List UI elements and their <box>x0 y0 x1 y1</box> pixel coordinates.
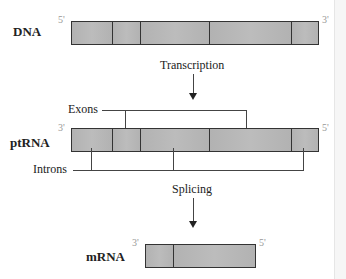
splicing-arrow-shaft <box>193 198 194 222</box>
ptrna-segment-exon <box>113 129 141 151</box>
dna-segment <box>141 22 210 44</box>
dna-segment <box>72 22 113 44</box>
ptrna-label: ptRNA <box>10 135 50 151</box>
exons-label: Exons <box>68 102 98 117</box>
dna-segment <box>210 22 292 44</box>
mrna-segment-exon <box>146 245 174 267</box>
introns-label: Introns <box>33 162 67 177</box>
splicing-label: Splicing <box>172 182 212 197</box>
mrna-label: mRNA <box>86 249 125 265</box>
ptrna-segment-intron <box>141 129 210 151</box>
dna-3prime-label: 3' <box>322 14 329 25</box>
dna-5prime-label: 5' <box>58 14 65 25</box>
mrna-strand <box>145 244 256 268</box>
mrna-segment-exon <box>174 245 255 267</box>
dna-segment <box>292 22 318 44</box>
splicing-arrow-icon <box>189 221 197 228</box>
dna-strand <box>71 21 319 45</box>
transcription-arrow-icon <box>189 93 197 100</box>
introns-bracket-line <box>73 170 304 171</box>
ptrna-5prime-label: 5' <box>322 122 329 133</box>
mrna-3prime-label: 3' <box>132 237 139 248</box>
ptrna-segment-exon <box>210 129 292 151</box>
mrna-5prime-label: 5' <box>259 237 266 248</box>
ptrna-3prime-label: 3' <box>58 122 65 133</box>
exons-bracket-line <box>102 110 246 111</box>
ptrna-strand <box>71 128 319 152</box>
dna-segment <box>113 22 141 44</box>
intron-pointer <box>303 148 304 170</box>
dna-label: DNA <box>13 24 41 40</box>
ptrna-segment-intron <box>72 129 113 151</box>
intron-pointer <box>91 148 92 170</box>
transcription-label: Transcription <box>160 58 224 73</box>
transcription-arrow-shaft <box>193 74 194 94</box>
page-edge-strip <box>334 0 346 279</box>
intron-pointer <box>173 148 174 170</box>
ptrna-segment-intron <box>292 129 318 151</box>
